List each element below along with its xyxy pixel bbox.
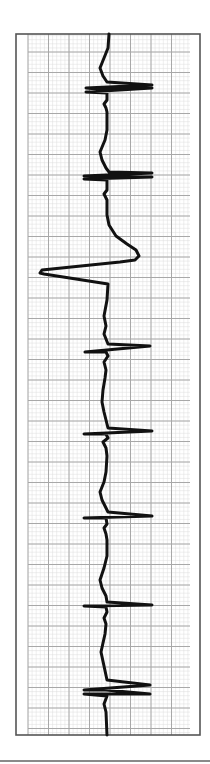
ecg-grid — [28, 34, 190, 735]
ecg-strip — [0, 0, 210, 764]
